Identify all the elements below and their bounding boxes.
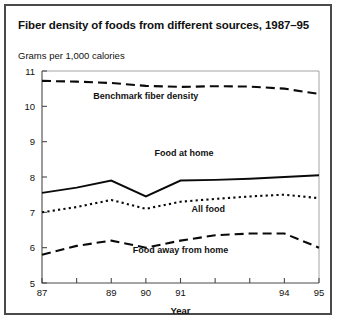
x-tick-label: 87 (37, 287, 48, 298)
x-tick-label: 89 (106, 287, 117, 298)
series-line (42, 175, 319, 196)
y-tick-label: 9 (30, 136, 35, 147)
series-label: Benchmark fiber density (93, 91, 198, 101)
series-annotations: Benchmark fiber densityFood at homeAll f… (93, 91, 228, 255)
y-tick-label: 5 (30, 278, 35, 289)
x-axis-title: Year (170, 305, 190, 316)
x-tick-label: 91 (175, 287, 186, 298)
y-tick-label: 7 (30, 207, 35, 218)
chart-figure: Fiber density of foods from different so… (4, 4, 332, 315)
x-tick-labels: 878990919495 (37, 287, 325, 298)
series-label: Food at home (154, 148, 213, 158)
x-tick-label: 95 (314, 287, 325, 298)
series-line (42, 195, 319, 213)
x-tick-label: 90 (141, 287, 152, 298)
y-tick-label: 11 (25, 66, 35, 77)
series-label: All food (191, 204, 225, 214)
y-tick-label: 10 (24, 101, 35, 112)
x-tick-label: 94 (279, 287, 290, 298)
y-tick-labels: 567891011 (24, 66, 35, 289)
series-label: Food away from home (133, 245, 229, 255)
line-chart-svg: 567891011 878990919495 Benchmark fiber d… (6, 6, 334, 317)
y-tick-label: 8 (30, 172, 35, 183)
series-lines (42, 81, 319, 255)
plot-area: 567891011 878990919495 Benchmark fiber d… (6, 6, 334, 317)
y-tick-label: 6 (30, 242, 35, 253)
